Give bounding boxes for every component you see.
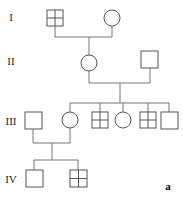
generation-label-iv: IV xyxy=(5,173,17,185)
panel-label: a xyxy=(165,180,171,192)
individual-iii-5[interactable] xyxy=(140,112,156,128)
symbol-square-unaffected[interactable] xyxy=(26,170,43,187)
individual-iii-1[interactable] xyxy=(25,112,42,129)
individual-ii-1[interactable] xyxy=(81,55,97,71)
individual-i-1[interactable] xyxy=(47,10,63,26)
individual-iii-3[interactable] xyxy=(92,112,108,128)
individual-iii-4[interactable] xyxy=(115,112,131,128)
symbol-circle-unaffected[interactable] xyxy=(62,112,78,128)
pedigree-chart: I II III IV a xyxy=(0,0,183,199)
symbol-circle-unaffected[interactable] xyxy=(104,10,120,26)
individual-iv-2[interactable] xyxy=(70,170,87,187)
symbol-square-unaffected[interactable] xyxy=(141,51,158,68)
generation-label-i: I xyxy=(9,11,13,23)
individual-iii-2[interactable] xyxy=(62,112,78,128)
symbol-circle-unaffected[interactable] xyxy=(81,55,97,71)
generation-label-iii: III xyxy=(6,115,17,127)
symbol-square-unaffected[interactable] xyxy=(25,112,42,129)
symbol-circle-unaffected[interactable] xyxy=(115,112,131,128)
mating-i-lines xyxy=(55,26,112,55)
individual-iv-1[interactable] xyxy=(26,170,43,187)
symbol-square-unaffected[interactable] xyxy=(161,112,178,129)
individual-i-2[interactable] xyxy=(104,10,120,26)
generation-label-ii: II xyxy=(7,55,15,67)
mating-ii-lines xyxy=(70,68,169,112)
individual-ii-2[interactable] xyxy=(141,51,158,68)
pedigree-diagram: I II III IV a xyxy=(0,0,183,199)
mating-iii-lines xyxy=(33,128,78,170)
individual-iii-6[interactable] xyxy=(161,112,178,129)
